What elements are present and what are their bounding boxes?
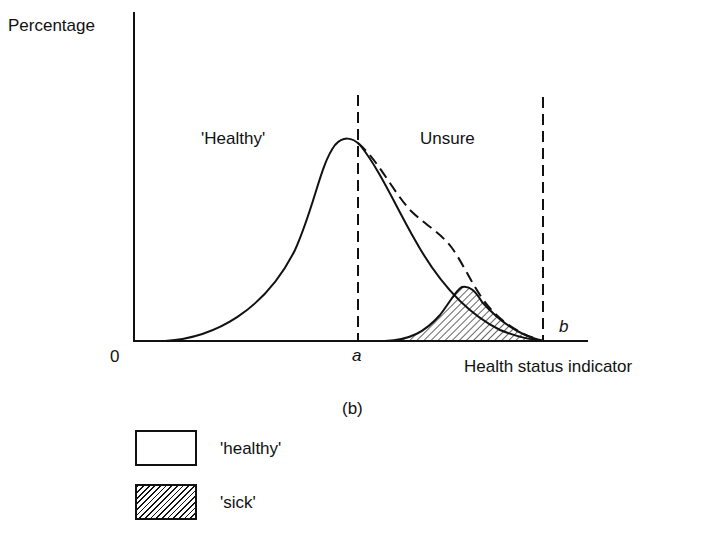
y-axis-label: Percentage (8, 17, 95, 34)
x-axis-label: Health status indicator (464, 358, 632, 375)
legend-label-healthy: 'healthy' (220, 440, 281, 457)
origin-label: 0 (110, 348, 119, 365)
threshold-a-label: a (352, 347, 361, 364)
legend-swatch-healthy (135, 430, 197, 466)
panel-label: (b) (342, 400, 363, 417)
threshold-b-label: b (559, 318, 568, 335)
distribution-diagram (0, 0, 708, 537)
region-unsure-label: Unsure (420, 130, 475, 147)
region-healthy-label: 'Healthy' (201, 130, 265, 147)
legend-swatch-sick (135, 484, 197, 520)
legend-label-sick: 'sick' (220, 494, 256, 511)
